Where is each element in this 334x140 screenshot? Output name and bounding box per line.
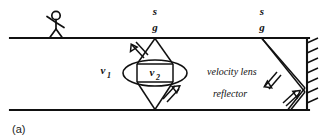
label-v2-subscript: 2 [155, 73, 160, 82]
reflector-hatching [307, 38, 318, 103]
label-v1-symbol: v [101, 64, 106, 76]
stick-figure-arm-right [56, 23, 64, 28]
label-velocity-outer: v 1 [101, 64, 111, 80]
vertical-reflector [307, 37, 318, 111]
arrow-reflected-right [283, 91, 300, 107]
label-geophone-left: g [151, 21, 158, 33]
label-v2-symbol: v [150, 66, 155, 78]
label-source-left: s [152, 5, 157, 17]
right-raypath [262, 39, 305, 110]
stick-figure-head [52, 11, 60, 19]
stick-figure-person [47, 11, 64, 37]
panel-tag: (a) [12, 123, 25, 135]
label-velocity-lens: velocity lens [207, 66, 257, 77]
label-geophone-right: g [258, 21, 265, 33]
label-source-right: s [259, 5, 264, 17]
stick-figure-leg-left [50, 29, 56, 37]
stick-figure-leg-right [56, 29, 62, 37]
label-velocity-inner: v 2 [150, 66, 160, 82]
label-v1-subscript: 1 [107, 71, 111, 80]
arrow-downgoing-right [264, 72, 281, 89]
arrow-upgoing-left [131, 42, 149, 58]
label-reflector: reflector [213, 88, 247, 99]
seismic-raypath-figure: s g [0, 0, 334, 140]
